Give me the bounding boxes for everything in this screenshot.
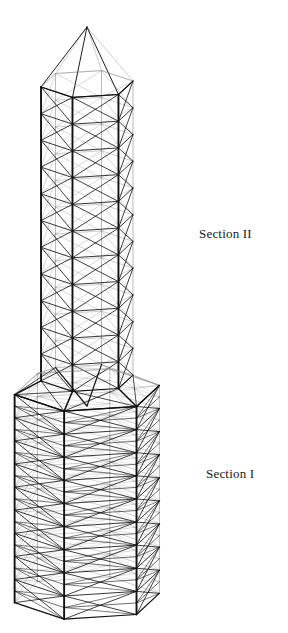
label-section-1: Section I (206, 466, 254, 482)
tower-figure: Section II Section I (0, 0, 288, 633)
tower-drawing (0, 0, 288, 633)
label-section-2: Section II (199, 226, 252, 242)
